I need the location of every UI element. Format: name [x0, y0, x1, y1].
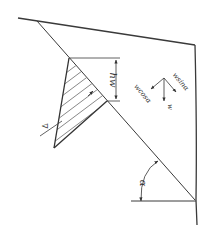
- force-vectors: w wcosα wsinα: [132, 71, 190, 110]
- hw-label: hw: [108, 73, 119, 88]
- wcos-vector: [151, 78, 164, 89]
- water-table-icon: ∇: [40, 123, 49, 129]
- hw-dimension: hw: [69, 58, 120, 101]
- right-boundary-line: [195, 45, 197, 225]
- w-label: w: [166, 104, 174, 110]
- wcos-label: wcosα: [132, 83, 153, 106]
- alpha-label: α: [138, 180, 149, 187]
- ground-surface-line: [18, 18, 195, 45]
- slope-angle: α: [138, 161, 158, 201]
- slope-diagram: hw ∇ w wcosα wsinα α: [0, 0, 211, 227]
- water-pressure-triangle: [30, 40, 110, 170]
